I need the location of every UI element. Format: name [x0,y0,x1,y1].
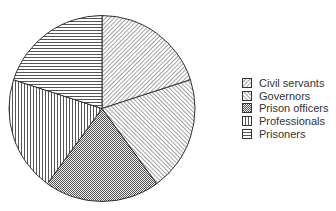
legend-item-professionals: Professionals [242,115,329,128]
legend-item-governors: Governors [242,90,329,103]
diagonal-back-pattern-icon [242,78,252,88]
pie-slices [9,16,195,202]
legend-item-prison-officers: Prison officers [242,102,329,115]
crosshatch-pattern-icon [242,103,252,113]
legend: Civil servants Governors Prison officers… [242,77,329,140]
legend-label: Prisoners [259,128,305,140]
horizontal-lines-pattern-icon [242,129,252,139]
diagonal-forward-pattern-icon [242,91,252,101]
legend-label: Prison officers [259,102,329,114]
legend-item-civil-servants: Civil servants [242,77,329,90]
vertical-lines-pattern-icon [242,116,252,126]
legend-label: Civil servants [259,77,324,89]
legend-label: Professionals [259,115,325,127]
legend-item-prisoners: Prisoners [242,127,329,140]
legend-label: Governors [259,90,310,102]
